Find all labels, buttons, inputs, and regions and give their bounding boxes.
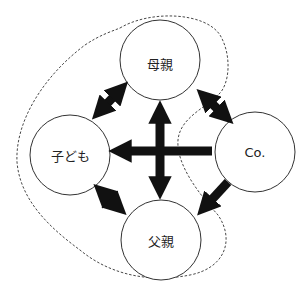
arrow-mother-child — [100, 90, 120, 111]
arrow-co-father — [205, 182, 228, 207]
node-child-label: 子ども — [51, 146, 90, 165]
family-system-diagram: 母親 子ども Co. 父親 — [0, 0, 304, 299]
arrow-mother-co — [205, 97, 225, 116]
node-father-label: 父親 — [148, 231, 174, 250]
arrow-child-father — [102, 192, 118, 207]
node-co-label: Co. — [245, 145, 266, 160]
node-mother-label: 母親 — [147, 54, 173, 73]
